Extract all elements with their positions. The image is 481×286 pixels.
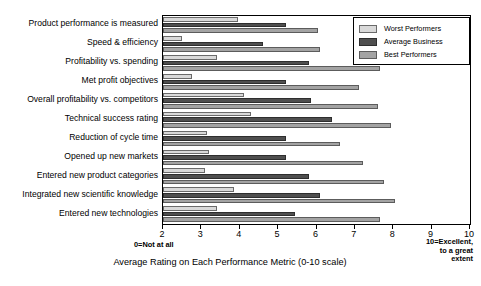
bar-worst (163, 187, 234, 192)
bar-worst (163, 168, 205, 173)
category-label: Entered new product categories (0, 171, 158, 180)
legend-item-best-performers: Best Performers (359, 48, 464, 61)
legend-item-worst-performers: Worst Performers (359, 22, 464, 35)
bar-worst (163, 36, 182, 41)
bar-worst (163, 74, 192, 79)
category-label: Entered new technologies (0, 209, 158, 218)
x-tick-label: 5 (262, 229, 292, 239)
bar-best (163, 142, 340, 147)
bar-avg (163, 117, 332, 122)
scale-note-left: 0=Not at all (134, 240, 174, 249)
legend-swatch-best-performers (359, 51, 377, 59)
chart-legend: Worst Performers Average Business Best P… (353, 17, 470, 65)
legend-swatch-average-business (359, 38, 377, 46)
category-axis-labels: Product performance is measuredSpeed & e… (0, 15, 158, 225)
bar-avg (163, 23, 286, 28)
x-tick-label: 7 (339, 229, 369, 239)
bar-best (163, 28, 318, 33)
bar-best (163, 161, 363, 166)
legend-label-worst-performers: Worst Performers (384, 24, 441, 33)
category-label: Reduction of cycle time (0, 133, 158, 142)
x-tick-label: 6 (301, 229, 331, 239)
bar-best (163, 199, 395, 204)
category-label: Integrated new scientific knowledge (0, 190, 158, 199)
bar-worst (163, 112, 251, 117)
bar-avg (163, 98, 311, 103)
bar-avg (163, 42, 263, 47)
bar-best (163, 47, 320, 52)
category-label: Met profit objectives (0, 76, 158, 85)
category-label: Technical success rating (0, 114, 158, 123)
legend-item-average-business: Average Business (359, 35, 464, 48)
x-axis-title: Average Rating on Each Performance Metri… (0, 257, 460, 267)
bar-best (163, 123, 391, 128)
x-tick-label: 2 (147, 229, 177, 239)
category-label: Opened up new markets (0, 152, 158, 161)
bar-avg (163, 155, 286, 160)
category-label: Speed & efficiency (0, 38, 158, 47)
grouped-bar-chart: Product performance is measuredSpeed & e… (0, 0, 481, 286)
legend-label-average-business: Average Business (384, 37, 443, 46)
bar-avg (163, 174, 309, 179)
bar-avg (163, 193, 320, 198)
bar-best (163, 85, 359, 90)
x-tick-label: 3 (185, 229, 215, 239)
bar-best (163, 180, 384, 185)
category-label: Profitability vs. spending (0, 57, 158, 66)
category-label: Overall profitability vs. competitors (0, 95, 158, 104)
bar-best (163, 66, 380, 71)
bar-worst (163, 55, 217, 60)
bar-best (163, 104, 378, 109)
bar-avg (163, 212, 295, 217)
bar-avg (163, 80, 286, 85)
bar-worst (163, 206, 217, 211)
bar-avg (163, 61, 309, 66)
bar-worst (163, 131, 207, 136)
bar-best (163, 217, 380, 222)
bar-worst (163, 150, 209, 155)
bar-worst (163, 93, 244, 98)
legend-swatch-worst-performers (359, 25, 377, 33)
x-tick-label: 4 (224, 229, 254, 239)
legend-label-best-performers: Best Performers (384, 50, 437, 59)
x-axis-ticks: 2345678910 (162, 225, 472, 231)
bar-avg (163, 136, 286, 141)
bar-worst (163, 17, 238, 22)
category-label: Product performance is measured (0, 19, 158, 28)
